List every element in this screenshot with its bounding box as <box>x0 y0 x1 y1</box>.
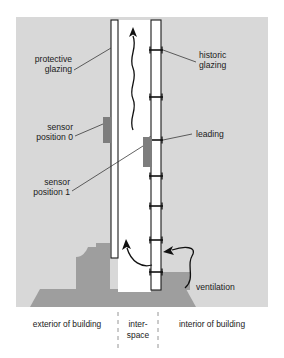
protective-glazing-pane <box>111 20 118 258</box>
label-sensor-position-0-line1: sensor <box>47 122 73 132</box>
label-historic-glazing-line1: historic <box>199 50 227 60</box>
figure-container: protective glazing historic glazing sens… <box>0 0 284 358</box>
label-protective-glazing-line2: glazing <box>45 64 72 74</box>
masonry-step-upper <box>96 243 110 258</box>
zone-label-interspace-line2: space <box>127 330 150 340</box>
sensor-block-position-1 <box>143 137 152 167</box>
label-ventilation: ventilation <box>196 282 235 292</box>
label-historic-glazing-line2: glazing <box>199 60 226 70</box>
zone-label-exterior: exterior of building <box>33 319 102 329</box>
zone-label-interspace-line1: inter- <box>128 319 147 329</box>
label-sensor-position-1-line1: sensor <box>44 177 70 187</box>
label-sensor-position-1-line2: position 1 <box>33 187 70 197</box>
label-protective-glazing-line1: protective <box>35 54 72 64</box>
historic-glazing-pane <box>151 20 161 290</box>
label-leading: leading <box>196 129 224 139</box>
cross-section-diagram: protective glazing historic glazing sens… <box>0 0 284 358</box>
label-sensor-position-0-line2: position 0 <box>36 132 73 142</box>
masonry-base-plinth <box>30 289 196 307</box>
zone-label-interior: interior of building <box>179 319 245 329</box>
sensor-block-position-0 <box>103 117 111 143</box>
